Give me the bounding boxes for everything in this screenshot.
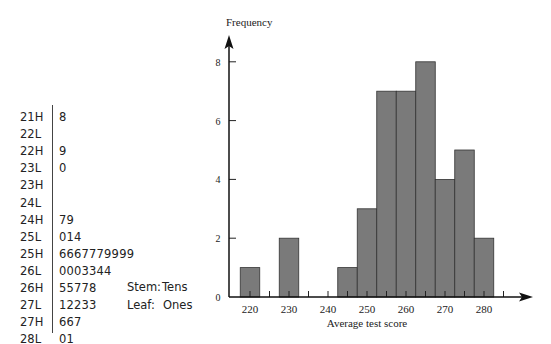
x-tick-label: 230 <box>281 303 298 315</box>
histogram-bars <box>240 62 494 297</box>
histogram-bar <box>435 179 455 297</box>
x-axis-title: Average test score <box>327 317 408 329</box>
x-tick-label: 240 <box>320 303 337 315</box>
y-axis-title: Frequency <box>226 16 273 28</box>
x-tick-label: 220 <box>242 303 259 315</box>
histogram: 220230240250260270280 02468 Frequency Av… <box>0 0 551 344</box>
y-tick-label: 6 <box>216 116 221 127</box>
x-tick-label: 250 <box>359 303 376 315</box>
histogram-bar <box>357 209 377 297</box>
y-tick-label: 4 <box>216 174 221 185</box>
histogram-bar <box>416 62 436 297</box>
y-tick-label: 0 <box>216 292 221 303</box>
histogram-bar <box>377 91 397 297</box>
histogram-bar <box>455 150 475 297</box>
histogram-bar <box>279 238 299 297</box>
histogram-bar <box>396 91 416 297</box>
x-tick-label: 270 <box>437 303 454 315</box>
y-axis-ticks: 02468 <box>216 57 237 303</box>
x-tick-label: 260 <box>398 303 415 315</box>
histogram-bar <box>474 238 494 297</box>
y-tick-label: 8 <box>216 57 221 68</box>
x-tick-label: 280 <box>476 303 493 315</box>
y-tick-label: 2 <box>216 233 221 244</box>
